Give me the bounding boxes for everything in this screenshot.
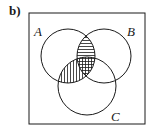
region-a-and-c-only xyxy=(0,0,148,127)
venn-diagram: A B C xyxy=(0,0,148,127)
set-a-label: A xyxy=(33,24,42,39)
set-b-label: B xyxy=(127,24,135,39)
set-c-label: C xyxy=(111,109,120,124)
